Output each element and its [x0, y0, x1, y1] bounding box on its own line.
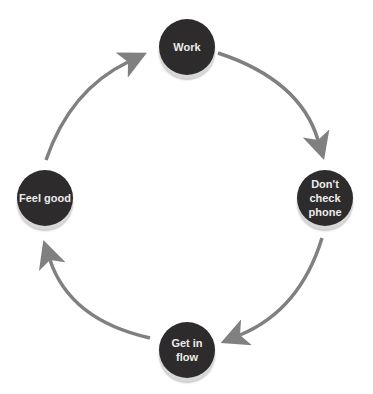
- arrow-dont-check-phone-to-get-in-flow: [240, 238, 322, 335]
- arrow-get-in-flow-to-feel-good: [50, 260, 150, 338]
- arrow-work-to-dont-check-phone: [218, 53, 318, 140]
- node-work: Work: [159, 19, 215, 75]
- node-feel-good: Feel good: [17, 170, 73, 226]
- node-label: Don't check phone: [297, 177, 353, 219]
- node-get-in-flow: Get in flow: [159, 322, 215, 378]
- node-dont-check-phone: Don't check phone: [297, 170, 353, 226]
- node-label: Get in flow: [159, 336, 215, 364]
- node-label: Work: [171, 40, 202, 54]
- arrow-feel-good-to-work: [46, 62, 128, 160]
- node-label: Feel good: [17, 191, 73, 205]
